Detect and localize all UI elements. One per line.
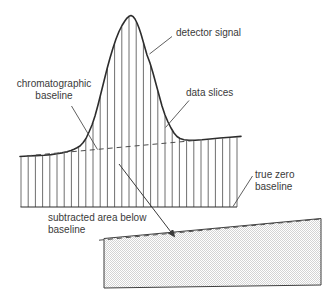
- label-line: true zero: [255, 169, 294, 181]
- detector-signal-label: detector signal: [176, 27, 241, 39]
- data-slices-label: data slices: [186, 87, 233, 99]
- diagram-figure: detector signal chromatographic baseline…: [0, 0, 336, 302]
- label-line: baseline: [255, 181, 294, 193]
- subtracted-area-label: subtracted area below baseline: [48, 212, 146, 236]
- label-line: subtracted area below: [48, 212, 146, 224]
- data-slice-lines: [21, 17, 237, 207]
- label-line: baseline: [8, 90, 100, 102]
- true-zero-baseline-label: true zero baseline: [255, 169, 294, 193]
- label-line: chromatographic: [8, 78, 100, 90]
- label-line: baseline: [48, 224, 146, 236]
- chromatographic-baseline-line: [27, 140, 197, 156]
- chromatographic-baseline-label: chromatographic baseline: [8, 78, 100, 102]
- diagram-canvas: [0, 0, 336, 302]
- label-leader-lines: [72, 37, 253, 207]
